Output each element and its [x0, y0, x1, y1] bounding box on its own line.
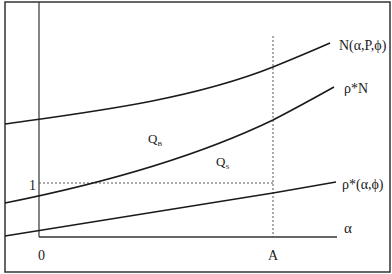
x-marker-label: A: [268, 248, 279, 263]
region-qb-label: QB: [148, 131, 162, 148]
region-qs-label: QS: [216, 154, 229, 171]
curve-rho-n: [5, 87, 334, 203]
origin-label: 0: [38, 248, 45, 263]
curve-rho: [5, 182, 336, 236]
label-n-curve: N(α,P,ϕ): [339, 38, 387, 54]
curve-n: [5, 43, 330, 124]
diagram-canvas: N(α,P,ϕ) ρ*N ρ*(α,ϕ) QB QS 1 0 A α: [0, 0, 392, 274]
diagram-frame: N(α,P,ϕ) ρ*N ρ*(α,ϕ) QB QS 1 0 A α: [0, 0, 392, 274]
label-rho-curve: ρ*(α,ϕ): [342, 177, 384, 193]
x-axis-label: α: [344, 220, 352, 236]
y-marker-label: 1: [29, 178, 36, 193]
outer-border: [5, 2, 390, 272]
label-rho-n-curve: ρ*N: [344, 81, 368, 96]
